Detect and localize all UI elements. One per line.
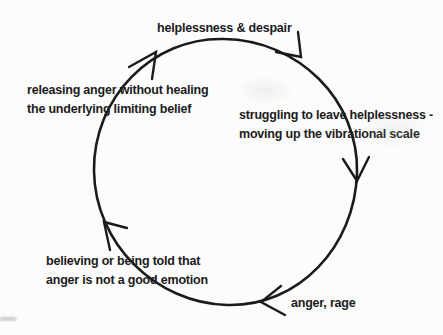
label-releasing-anger-line2: the underlying limiting belief bbox=[27, 100, 208, 119]
label-struggling-to-leave: struggling to leave helplessness - movin… bbox=[239, 106, 433, 143]
label-releasing-anger: releasing anger without healing the unde… bbox=[27, 81, 208, 118]
label-believing-told-line2: anger is not a good emotion bbox=[46, 271, 208, 290]
label-believing-told-line1: believing or being told that bbox=[46, 252, 208, 271]
label-struggling-to-leave-line2: moving up the vibrational scale bbox=[239, 125, 433, 144]
cycle-arrow-bottom-icon bbox=[261, 286, 285, 315]
label-struggling-to-leave-line1: struggling to leave helplessness - bbox=[239, 106, 433, 125]
label-releasing-anger-line1: releasing anger without healing bbox=[27, 81, 208, 100]
label-anger-rage: anger, rage bbox=[291, 294, 356, 313]
cycle-diagram: helplessness & despair releasing anger w… bbox=[0, 0, 443, 335]
label-believing-told: believing or being told that anger is no… bbox=[46, 252, 208, 289]
label-helplessness-despair: helplessness & despair bbox=[157, 19, 292, 38]
